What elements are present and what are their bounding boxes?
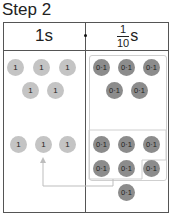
tenths-counter: 0·1: [131, 82, 148, 99]
ones-counter: 1: [7, 59, 24, 76]
tenths-counter: 0·1: [143, 59, 160, 76]
tenths-counter: 0·1: [118, 184, 135, 201]
tenths-counter: 0·1: [143, 160, 160, 177]
tenths-counter: 0·1: [93, 136, 110, 153]
tenths-counter: 0·1: [93, 160, 110, 177]
ones-counter: 1: [59, 59, 76, 76]
ones-counter: 1: [33, 59, 50, 76]
ones-counter: 1: [22, 82, 39, 99]
exchange-arrow-icon: [0, 0, 172, 217]
ones-counter: 1: [47, 82, 64, 99]
tenths-counter: 0·1: [143, 136, 160, 153]
tenths-counter: 0·1: [118, 136, 135, 153]
tenths-counter: 0·1: [106, 82, 123, 99]
tenths-counter: 0·1: [118, 160, 135, 177]
ones-counter: 1: [10, 136, 27, 153]
tenths-counter: 0·1: [93, 59, 110, 76]
tenths-counter: 0·1: [118, 59, 135, 76]
ones-counter: 1: [35, 136, 52, 153]
ones-counter: 1: [59, 136, 76, 153]
